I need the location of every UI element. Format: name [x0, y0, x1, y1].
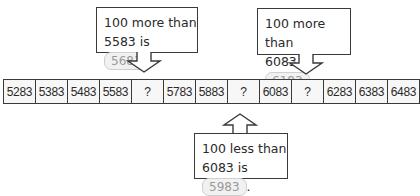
sequence-cell-missing[interactable]: ?: [292, 80, 324, 103]
callout-text-line2: 6083 is 5983.: [202, 158, 287, 196]
callout-100-more-than-6083: 100 more than 6083 is 6183.: [257, 8, 351, 55]
callout-100-less-than-6083: 100 less than 6083 is 5983.: [194, 133, 288, 179]
callout-text-line1: 100 more than: [265, 14, 350, 52]
callout-prefix: 5583 is: [104, 34, 150, 49]
sequence-cell-missing[interactable]: ?: [228, 80, 260, 103]
callout-text-line1: 100 more than: [104, 13, 197, 32]
sequence-cell: 5283: [4, 80, 36, 103]
sequence-cell-missing[interactable]: ?: [132, 80, 164, 103]
callout-text-line1: 100 less than: [202, 139, 287, 158]
period: .: [247, 179, 251, 194]
sequence-cell: 5383: [36, 80, 68, 103]
sequence-cell: 6483: [388, 80, 419, 103]
sequence-cell: 5483: [68, 80, 100, 103]
answer-box[interactable]: 5983: [202, 178, 247, 196]
arrow-down-icon: [126, 52, 162, 74]
sequence-cell: 5583: [100, 80, 132, 103]
sequence-cell: 5883: [196, 80, 228, 103]
sequence-cell: 5783: [164, 80, 196, 103]
number-sequence-strip: 5283 5383 5483 5583 ? 5783 5883 ? 6083 ?…: [3, 79, 420, 104]
callout-prefix: 6083 is: [202, 160, 248, 175]
callout-100-more-than-5583: 100 more than 5583 is 5683.: [96, 7, 198, 53]
arrow-up-icon: [222, 112, 258, 134]
sequence-cell: 6283: [324, 80, 356, 103]
arrow-down-icon: [288, 54, 324, 76]
sequence-cell: 6383: [356, 80, 388, 103]
sequence-cell: 6083: [260, 80, 292, 103]
